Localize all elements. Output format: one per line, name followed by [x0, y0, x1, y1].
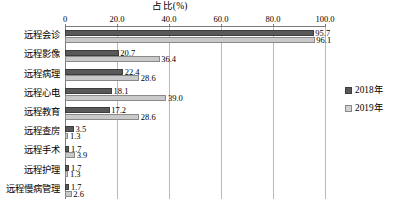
- bar-value-label: 28.6: [141, 113, 156, 122]
- legend-label: 2019年: [355, 103, 383, 114]
- y-category-label: 远程护理: [24, 165, 60, 176]
- bar-value-label: 3.9: [77, 151, 88, 160]
- legend-swatch-icon: [345, 105, 352, 112]
- bar-group: 17.228.6: [65, 104, 325, 123]
- y-category-label: 远程教育: [24, 107, 60, 118]
- bar-value-label: 36.4: [161, 55, 176, 64]
- bar-2018: [65, 107, 110, 113]
- bar-group: 95.796.1: [65, 27, 325, 46]
- bar-2018: [65, 30, 314, 36]
- legend-swatch-icon: [345, 87, 352, 94]
- bar-chart: 占比(%) 020.040.060.080.0100.0 远程会诊远程影像远程病…: [0, 0, 419, 217]
- bar-group-inner: 1.71.3: [65, 162, 325, 181]
- bar-2019: [65, 152, 75, 158]
- bar-value-label: 96.1: [316, 36, 331, 45]
- bar-2019: [65, 95, 166, 101]
- plot-area: 95.796.120.736.422.428.618.139.017.228.6…: [65, 26, 325, 199]
- bar-2018: [65, 146, 69, 152]
- bar-2018: [65, 88, 112, 94]
- bar-rows: 95.796.120.736.422.428.618.139.017.228.6…: [65, 27, 325, 199]
- y-category-label: 远程病理: [24, 69, 60, 80]
- y-category-label: 远程影像: [24, 49, 60, 60]
- bar-group: 18.139.0: [65, 85, 325, 104]
- bar-value-label: 1.3: [70, 132, 81, 141]
- bar-2019: [65, 75, 139, 81]
- x-tick-label: 60.0: [214, 14, 229, 24]
- x-tick-label: 80.0: [266, 14, 281, 24]
- figure-caption: [0, 208, 419, 217]
- legend-item[interactable]: 2018年: [345, 85, 419, 96]
- legend-item[interactable]: 2019年: [345, 103, 419, 114]
- bar-group: 20.736.4: [65, 46, 325, 65]
- x-tick-label: 0: [63, 14, 67, 24]
- bar-group: 3.51.3: [65, 123, 325, 142]
- bar-group-inner: 22.428.6: [65, 65, 325, 84]
- bar-2018: [65, 50, 119, 56]
- chart-legend: 2018年2019年: [345, 85, 419, 121]
- y-category-label: 远程会诊: [24, 30, 60, 41]
- y-axis-category-labels: 远程会诊远程影像远程病理远程心电远程教育远程查房远程手术远程护理远程慢病管理: [0, 26, 62, 199]
- bar-2019: [65, 133, 68, 139]
- bar-2019: [65, 114, 139, 120]
- bar-group-inner: 18.139.0: [65, 85, 325, 104]
- bar-value-label: 1.3: [70, 170, 81, 179]
- legend-label: 2018年: [355, 85, 383, 96]
- x-tick-label: 40.0: [162, 14, 177, 24]
- x-axis-tick-labels: 020.040.060.080.0100.0: [0, 14, 419, 25]
- bar-group-inner: 20.736.4: [65, 46, 325, 65]
- bar-2018: [65, 184, 69, 190]
- y-category-label: 远程心电: [24, 88, 60, 99]
- x-tick-label: 100.0: [315, 14, 334, 24]
- y-category-label: 远程慢病管理: [6, 184, 60, 195]
- bar-group: 1.73.9: [65, 142, 325, 161]
- bar-value-label: 28.6: [141, 74, 156, 83]
- bar-value-label: 2.6: [73, 190, 84, 199]
- bar-2018: [65, 165, 69, 171]
- bar-2019: [65, 171, 68, 177]
- bar-group: 1.71.3: [65, 162, 325, 181]
- bar-group-inner: 3.51.3: [65, 123, 325, 142]
- y-category-label: 远程查房: [24, 126, 60, 137]
- x-tick-label: 20.0: [110, 14, 125, 24]
- chart-title: 占比(%): [0, 1, 340, 12]
- bar-value-label: 39.0: [168, 94, 183, 103]
- bar-group: 22.428.6: [65, 65, 325, 84]
- bar-group: 1.72.6: [65, 181, 325, 200]
- bar-2019: [65, 191, 72, 197]
- bar-2019: [65, 37, 315, 43]
- bar-group-inner: 1.72.6: [65, 181, 325, 200]
- gridline: [325, 27, 326, 199]
- bar-2019: [65, 56, 160, 62]
- y-category-label: 远程手术: [24, 145, 60, 156]
- bar-group-inner: 95.796.1: [65, 27, 325, 46]
- bar-2018: [65, 69, 123, 75]
- bar-group-inner: 17.228.6: [65, 104, 325, 123]
- bar-group-inner: 1.73.9: [65, 142, 325, 161]
- x-tick-mark: [325, 24, 326, 27]
